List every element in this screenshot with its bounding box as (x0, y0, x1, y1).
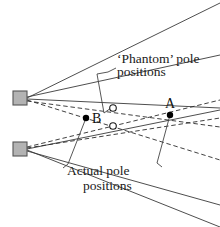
actual-leader-to-b (63, 118, 86, 168)
phantom-point-lower (110, 123, 117, 130)
phantom-annotation-line2: positions (117, 64, 166, 79)
actual-annotation-line2: positions (83, 178, 132, 193)
actual-leader-to-a (157, 115, 170, 167)
actual-annotation-line1: Actual pole (67, 163, 130, 178)
phantom-point-group (110, 105, 117, 130)
dashed-sightline-bottom-to-far (27, 100, 220, 147)
actual-point-a (167, 112, 173, 118)
dashed-sightline-bottom-to-near (27, 118, 220, 148)
phantom-leader-bracket (97, 72, 111, 113)
sensor-top (13, 91, 27, 105)
solid-beam-group (27, 3, 220, 227)
point-label-a: A (165, 96, 176, 111)
phantom-leader-hook (108, 68, 116, 72)
dashed-sightline-group (27, 100, 220, 160)
dashed-sightline-top-to-near (27, 101, 220, 127)
sensor-bottom (13, 142, 27, 156)
actual-point-b (83, 115, 89, 121)
dashed-sightline-top-to-far (27, 100, 220, 160)
phantom-point-upper (110, 105, 117, 112)
point-label-b: B (92, 111, 101, 126)
sensor-group (13, 91, 27, 156)
diagram-canvas: B A ‘Phantom’ pole positions Actual pole… (0, 0, 220, 227)
figure-container: B A ‘Phantom’ pole positions Actual pole… (0, 0, 220, 227)
